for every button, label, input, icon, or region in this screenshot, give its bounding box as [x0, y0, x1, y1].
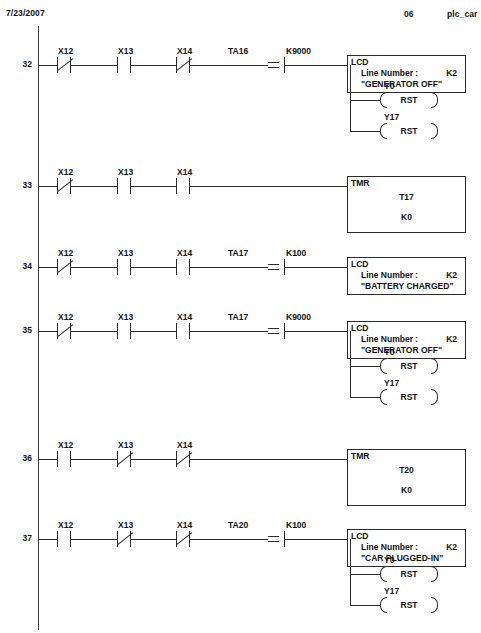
rung-number-35: 35: [10, 325, 32, 335]
contact-label-x14-rung-36: X14: [177, 440, 192, 450]
lcd-box-title: LCD: [351, 259, 368, 269]
contact-label-x14-rung-35: X14: [177, 312, 192, 322]
compare-equal-symbol-rung-34: [268, 263, 279, 271]
contact-x12-rung-35[interactable]: [57, 323, 71, 339]
coil-operation-label: RST: [380, 361, 438, 371]
contact-x14-rung-36[interactable]: [176, 451, 190, 467]
coil-operation-label: RST: [380, 600, 438, 610]
contact-x12-rung-34[interactable]: [57, 259, 71, 275]
contact-x12-rung-37[interactable]: [57, 531, 71, 547]
lcd-box-title: LCD: [351, 531, 368, 541]
wire-horizontal: [131, 186, 176, 187]
contact-label-x13-rung-35: X13: [118, 312, 133, 322]
contact-label-x13-rung-32: X13: [118, 46, 133, 56]
rung-number-37: 37: [10, 533, 32, 543]
wire-horizontal: [350, 131, 380, 132]
lcd-line-number-label: Line Number :: [361, 68, 418, 78]
coil-operation-label: RST: [380, 392, 438, 402]
lcd-box-title: LCD: [351, 57, 368, 67]
tmr-timer-name: T20: [348, 465, 465, 475]
compare-equal-symbol-rung-35: [268, 327, 279, 335]
contact-x14-rung-33[interactable]: [176, 178, 190, 194]
contact-x12-rung-32[interactable]: [57, 57, 71, 73]
wire-horizontal: [71, 331, 117, 332]
contact-x13-rung-32[interactable]: [117, 57, 131, 73]
wire-horizontal: [350, 605, 380, 606]
contact-x14-rung-35[interactable]: [176, 323, 190, 339]
contact-x14-rung-34[interactable]: [176, 259, 190, 275]
coil-label-y17-rung-35: Y17: [384, 378, 399, 388]
contact-x13-rung-36[interactable]: [117, 451, 131, 467]
coil-y17-rung-37[interactable]: RST: [380, 597, 438, 613]
coil-y0-rung-35[interactable]: RST: [380, 358, 438, 374]
wire-horizontal: [350, 397, 380, 398]
wire-horizontal: [38, 186, 57, 187]
contact-x13-rung-35[interactable]: [117, 323, 131, 339]
contact-label-x14-rung-34: X14: [177, 248, 192, 258]
header-project-name: plc_car: [447, 9, 477, 19]
contact-label-x12-rung-33: X12: [58, 167, 73, 177]
coil-label-y17-rung-37: Y17: [384, 586, 399, 596]
wire-horizontal: [284, 267, 347, 268]
tmr-box-rung-36[interactable]: TMRT20K0: [347, 449, 466, 506]
wire-horizontal: [131, 459, 176, 460]
wire-horizontal: [71, 267, 117, 268]
rung-number-34: 34: [10, 261, 32, 271]
wire-horizontal: [131, 267, 176, 268]
wire-horizontal: [38, 459, 57, 460]
contact-x12-rung-36[interactable]: [57, 451, 71, 467]
compare-right-operand-rung-32: K9000: [286, 46, 311, 56]
rung-number-32: 32: [10, 59, 32, 69]
lcd-k-value: K2: [446, 68, 457, 78]
contact-label-x14-rung-33: X14: [177, 167, 192, 177]
coil-label-y0-rung-37: Y0: [384, 555, 394, 565]
lcd-box-rung-32[interactable]: LCDLine Number :K2"GENERATOR OFF": [347, 55, 466, 93]
tmr-box-rung-33[interactable]: TMRT17K0: [347, 176, 466, 233]
tmr-box-title: TMR: [351, 178, 369, 188]
contact-label-x12-rung-32: X12: [58, 46, 73, 56]
coil-y17-rung-32[interactable]: RST: [380, 123, 438, 139]
branch-drop-rung-37: [350, 539, 351, 605]
lcd-box-rung-34[interactable]: LCDLine Number :K2"BATTERY CHARGED": [347, 257, 466, 295]
compare-equal-symbol-rung-37: [268, 535, 279, 543]
contact-x14-rung-37[interactable]: [176, 531, 190, 547]
compare-left-operand-rung-32: TA16: [228, 46, 248, 56]
contact-x13-rung-37[interactable]: [117, 531, 131, 547]
tmr-preset-value: K0: [348, 212, 465, 222]
contact-label-x14-rung-32: X14: [177, 46, 192, 56]
wire-horizontal: [190, 459, 347, 460]
lcd-box-rung-37[interactable]: LCDLine Number :K2"CAR PLUGGED-IN": [347, 529, 466, 567]
contact-label-x12-rung-37: X12: [58, 520, 73, 530]
wire-horizontal: [350, 366, 380, 367]
lcd-box-title: LCD: [351, 323, 368, 333]
coil-y0-rung-32[interactable]: RST: [380, 92, 438, 108]
contact-label-x13-rung-37: X13: [118, 520, 133, 530]
coil-label-y0-rung-35: Y0: [384, 347, 394, 357]
ladder-diagram-sheet: 7/23/2007 06 plc_car 32X12X13X14TA16K900…: [0, 0, 481, 633]
contact-label-x14-rung-37: X14: [177, 520, 192, 530]
contact-x13-rung-33[interactable]: [117, 178, 131, 194]
lcd-k-value: K2: [446, 542, 457, 552]
tmr-box-title: TMR: [351, 451, 369, 461]
compare-equal-symbol-rung-32: [268, 61, 279, 69]
coil-y0-rung-37[interactable]: RST: [380, 566, 438, 582]
contact-label-x12-rung-34: X12: [58, 248, 73, 258]
wire-horizontal: [38, 65, 57, 66]
contact-label-x13-rung-36: X13: [118, 440, 133, 450]
compare-left-operand-rung-37: TA20: [228, 520, 248, 530]
contact-x14-rung-32[interactable]: [176, 57, 190, 73]
contact-label-x12-rung-36: X12: [58, 440, 73, 450]
lcd-line-number-label: Line Number :: [361, 334, 418, 344]
contact-x13-rung-34[interactable]: [117, 259, 131, 275]
compare-right-operand-rung-35: K9000: [286, 312, 311, 322]
wire-horizontal: [190, 331, 268, 332]
lcd-box-rung-35[interactable]: LCDLine Number :K2"GENERATOR OFF": [347, 321, 466, 359]
compare-right-operand-rung-37: K100: [286, 520, 306, 530]
wire-horizontal: [190, 65, 268, 66]
wire-horizontal: [131, 331, 176, 332]
coil-y17-rung-35[interactable]: RST: [380, 389, 438, 405]
wire-horizontal: [190, 539, 268, 540]
contact-x12-rung-33[interactable]: [57, 178, 71, 194]
branch-drop-rung-35: [350, 331, 351, 397]
rung-number-36: 36: [10, 453, 32, 463]
